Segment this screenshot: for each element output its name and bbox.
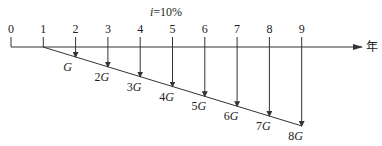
period-label: 0 <box>8 22 14 36</box>
gradient-amount-label: 5G <box>191 99 206 113</box>
gradient-amount-label: 2G <box>95 70 110 84</box>
interest-rate-label: i=10% <box>150 5 182 19</box>
cash-flow-diagram: i=10% 年 0123456789 G2G3G4G5G6G7G8G <box>0 0 382 146</box>
axis-unit-label: 年 <box>366 40 378 54</box>
period-label: 4 <box>137 22 143 36</box>
gradient-labels: G2G3G4G5G6G7G8G <box>63 60 303 143</box>
gradient-amount-label: 3G <box>127 80 142 94</box>
period-label: 5 <box>170 22 176 36</box>
period-label: 9 <box>299 22 305 36</box>
gradient-arrows <box>76 37 302 126</box>
gradient-amount-label: 7G <box>256 119 271 133</box>
period-label: 6 <box>202 22 208 36</box>
period-label: 8 <box>266 22 272 36</box>
gradient-amount-label: 4G <box>159 90 174 104</box>
gradient-amount-label: 6G <box>224 109 239 123</box>
period-label: 1 <box>40 22 46 36</box>
period-label: 2 <box>73 22 79 36</box>
gradient-amount-label: G <box>63 60 72 74</box>
period-label: 3 <box>105 22 111 36</box>
gradient-amount-label: 8G <box>288 129 303 143</box>
period-label: 7 <box>234 22 240 36</box>
period-ticks: 0123456789 <box>8 22 305 47</box>
